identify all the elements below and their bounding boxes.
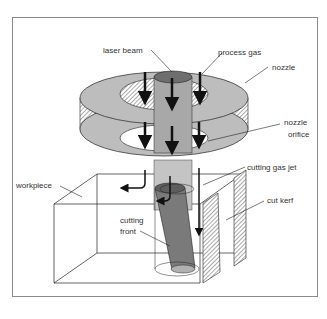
label-workpiece: workpiece <box>15 181 53 190</box>
label-nozzle: nozzle <box>272 63 296 72</box>
label-laser-beam: laser beam <box>103 46 143 55</box>
label-process-gas: process gas <box>218 48 261 57</box>
laser-cutting-diagram: laser beam process gas nozzle nozzle ori… <box>0 0 327 319</box>
label-cutting-front-line1: cutting <box>120 216 144 225</box>
label-cutting-gas-jet: cutting gas jet <box>247 163 297 172</box>
label-cut-kerf: cut kerf <box>267 196 294 205</box>
cutting-front <box>155 183 199 276</box>
label-nozzle-orifice-line2: orifice <box>288 130 310 139</box>
label-cutting-front-line2: front <box>120 227 137 236</box>
cut-kerf-walls <box>203 170 246 283</box>
label-nozzle-orifice-line1: nozzle <box>284 118 308 127</box>
